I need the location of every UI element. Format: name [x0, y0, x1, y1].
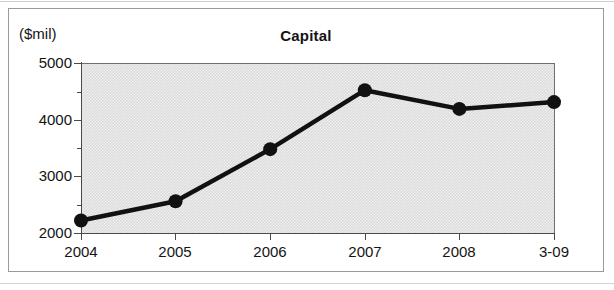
x-tick-3-09 [554, 233, 555, 240]
page-rule-bottom [0, 283, 614, 284]
plot-area [81, 63, 555, 234]
chart-figure-frame: ($mil) Capital 5000 4000 3000 2000 2004 … [8, 8, 604, 272]
x-tick-2007 [365, 233, 366, 240]
page-rule-top [0, 1, 614, 2]
x-axis-line [81, 233, 555, 234]
y-tick-5000 [74, 63, 82, 64]
y-tick-label-2000: 2000 [14, 224, 72, 241]
x-tick-label-2005: 2005 [135, 243, 215, 260]
y-tick-minor-4500 [77, 92, 82, 93]
chart-title: Capital [9, 27, 603, 44]
x-tick-2006 [270, 233, 271, 240]
x-tick-label-2006: 2006 [230, 243, 310, 260]
x-tick-label-3-09: 3-09 [514, 243, 594, 260]
x-tick-label-2007: 2007 [325, 243, 405, 260]
y-tick-4000 [74, 120, 82, 121]
x-tick-2005 [175, 233, 176, 240]
x-tick-2008 [459, 233, 460, 240]
y-tick-3000 [74, 176, 82, 177]
y-tick-label-3000: 3000 [14, 167, 72, 184]
x-tick-label-2004: 2004 [41, 243, 121, 260]
x-tick-2004 [81, 233, 82, 240]
y-tick-minor-3500 [77, 148, 82, 149]
y-tick-label-4000: 4000 [14, 111, 72, 128]
y-tick-label-5000: 5000 [14, 54, 72, 71]
x-tick-label-2008: 2008 [419, 243, 499, 260]
y-tick-minor-2500 [77, 205, 82, 206]
